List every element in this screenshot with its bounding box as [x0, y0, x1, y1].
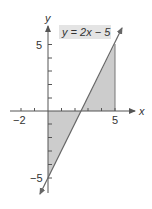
y-tick-label-5: 5 [36, 39, 42, 51]
x-axis-label: x [138, 105, 145, 117]
x-tick-label-5: 5 [112, 114, 118, 126]
y-tick-label-minus-5: −5 [30, 172, 43, 184]
x-tick-label-minus-2: −2 [13, 114, 26, 126]
y-axis-label: y [44, 12, 52, 24]
graph-figure: y = 2x − 5 y x 5 −5 −2 5 [0, 0, 152, 209]
equation-label: y = 2x − 5 [61, 26, 111, 38]
